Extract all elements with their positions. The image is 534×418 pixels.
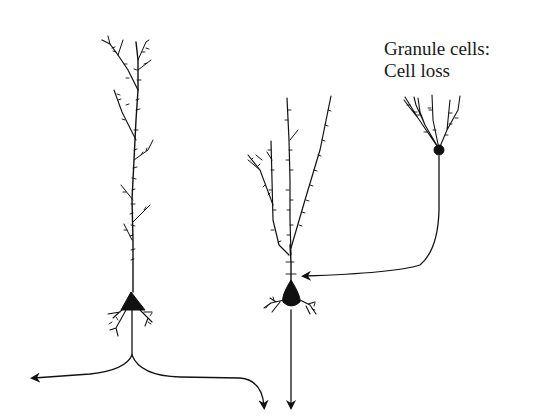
granule-cell [305,95,460,276]
cell-loss-label: Cell loss [384,60,450,82]
diagram-svg [0,0,534,418]
pyramidal-neuron-middle [248,96,331,406]
neuron-diagram: Granule cells: Cell loss [0,0,534,418]
granule-cells-label: Granule cells: [384,38,490,60]
pyramidal-neuron-left [34,36,264,406]
